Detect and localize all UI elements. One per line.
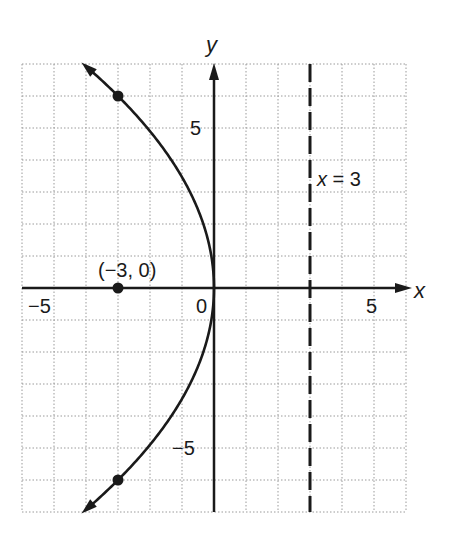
x-axis-label: x [413, 278, 426, 303]
tick-label-origin: 0 [196, 295, 207, 317]
tick-label-y-5: 5 [190, 117, 201, 139]
x-axis-arrow-icon [395, 283, 412, 293]
directrix-label-rest: = 3 [327, 168, 361, 190]
tick-label-y-neg5: −5 [172, 437, 195, 459]
parabola-graph: y x 5 −5 −5 0 5 (−3, 0) x = 3 [0, 0, 449, 538]
data-point [113, 283, 124, 294]
data-point [113, 475, 124, 486]
axes [22, 63, 412, 512]
y-axis-arrow-icon [209, 63, 219, 80]
directrix-label: x = 3 [316, 168, 361, 190]
data-point [113, 91, 124, 102]
points [113, 91, 124, 486]
y-axis-label: y [204, 32, 219, 57]
tick-label-x-5: 5 [366, 295, 377, 317]
tick-label-x-neg5: −5 [28, 295, 51, 317]
focus-label: (−3, 0) [98, 259, 156, 281]
